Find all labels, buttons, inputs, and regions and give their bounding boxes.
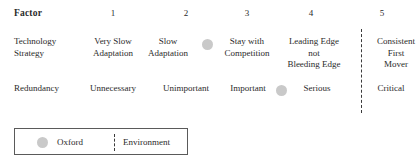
table-row-redundancy: Redundancy Unnecessary Unimportant Impor… — [0, 83, 420, 101]
factor-rating-figure: Factor 1 2 3 4 5 TechnologyStrategy Very… — [0, 0, 420, 164]
scale-point-4: 4 — [299, 8, 323, 18]
cell-tech-2: SlowAdaptation — [125, 36, 211, 59]
legend-environment-label: Environment — [123, 137, 170, 148]
scale-point-5: 5 — [370, 8, 394, 18]
legend-box: Oxford Environment — [14, 128, 188, 155]
oxford-marker-dot-redundancy — [276, 85, 287, 96]
factor-column-title: Factor — [14, 8, 42, 18]
scale-point-1: 1 — [101, 8, 125, 18]
scale-point-2: 2 — [174, 8, 198, 18]
cell-tech-4: Leading EdgenotBleeding Edge — [271, 36, 357, 71]
cell-redundancy-5: Critical — [361, 83, 420, 95]
scale-point-3: 3 — [235, 8, 259, 18]
oxford-marker-dot-technology-strategy — [202, 39, 213, 50]
cell-tech-5: ConsistentFirstMover — [366, 36, 420, 71]
legend-environment-dash-icon — [114, 134, 115, 151]
legend-oxford-label: Oxford — [57, 137, 83, 148]
legend-oxford-circle-icon — [37, 137, 48, 148]
scale-header-row: Factor 1 2 3 4 5 — [0, 8, 420, 24]
